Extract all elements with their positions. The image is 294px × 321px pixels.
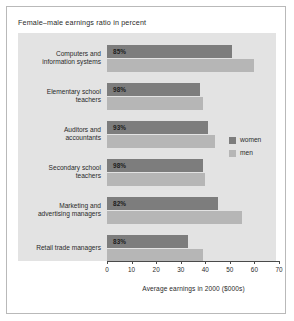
category-label: Elementary schoolteachers — [11, 88, 101, 105]
x-axis-tick — [181, 261, 182, 264]
bar-women: 83% — [107, 235, 188, 248]
category-label-line: accountants — [11, 134, 101, 143]
bar-value-label: 82% — [113, 200, 126, 207]
x-axis-tick — [279, 261, 280, 264]
legend-label-men: men — [240, 149, 253, 156]
category-label-line: teachers — [11, 172, 101, 181]
bar-group: 85% — [107, 45, 279, 72]
x-axis-tick-label: 20 — [153, 266, 160, 273]
category-label: Auditors andaccountants — [11, 126, 101, 143]
x-axis-tick — [230, 261, 231, 264]
x-axis-tick — [205, 261, 206, 264]
x-axis-tick-label: 10 — [128, 266, 135, 273]
category-label-line: Computers and — [11, 50, 101, 59]
x-axis-tick — [107, 261, 108, 264]
x-axis-tick-label: 40 — [202, 266, 209, 273]
bar-women: 85% — [107, 45, 232, 58]
legend-label-women: women — [240, 136, 261, 143]
x-axis-tick-label: 30 — [177, 266, 184, 273]
legend-swatch-women-icon — [229, 137, 236, 144]
bar-women: 98% — [107, 83, 200, 96]
category-label-line: information systems — [11, 58, 101, 67]
bar-value-label: 93% — [113, 124, 126, 131]
bar-men — [107, 97, 203, 110]
bar-group: 83% — [107, 235, 279, 262]
x-axis-tick-label: 70 — [275, 266, 282, 273]
bar-women: 93% — [107, 121, 208, 134]
bar-value-label: 85% — [113, 48, 126, 55]
category-label: Computers andinformation systems — [11, 50, 101, 67]
plot-area: 85%98%93%98%82%83% — [107, 33, 279, 261]
legend-swatch-men-icon — [229, 150, 236, 157]
bar-value-label: 98% — [113, 86, 126, 93]
bar-men — [107, 59, 254, 72]
bar-group: 98% — [107, 159, 279, 186]
bar-men — [107, 173, 205, 186]
category-label-line: Auditors and — [11, 126, 101, 135]
x-axis-tick-label: 50 — [226, 266, 233, 273]
bar-group: 98% — [107, 83, 279, 110]
bar-value-label: 98% — [113, 162, 126, 169]
category-label-line: Elementary school — [11, 88, 101, 97]
x-axis-title: Average earnings in 2000 ($000s) — [107, 285, 280, 292]
chart-figure: Female–male earnings ratio in percent Co… — [6, 6, 286, 314]
category-label-line: Retail trade managers — [11, 244, 101, 253]
category-label-line: advertising managers — [11, 210, 101, 219]
category-label-line: Marketing and — [11, 202, 101, 211]
x-axis-tick — [132, 261, 133, 264]
bar-men — [107, 135, 215, 148]
bar-group: 82% — [107, 197, 279, 224]
category-label-line: teachers — [11, 96, 101, 105]
bar-women: 98% — [107, 159, 203, 172]
bar-men — [107, 211, 242, 224]
category-label: Secondary schoolteachers — [11, 164, 101, 181]
bar-women: 82% — [107, 197, 218, 210]
category-label: Marketing andadvertising managers — [11, 202, 101, 219]
category-label-line: Secondary school — [11, 164, 101, 173]
x-axis-tick — [254, 261, 255, 264]
x-axis-tick-label: 0 — [105, 266, 109, 273]
x-axis-tick — [156, 261, 157, 264]
category-label: Retail trade managers — [11, 244, 101, 253]
x-axis-tick-label: 60 — [251, 266, 258, 273]
chart-title: Female–male earnings ratio in percent — [18, 18, 146, 27]
bar-value-label: 83% — [113, 238, 126, 245]
bar-group: 93% — [107, 121, 279, 148]
